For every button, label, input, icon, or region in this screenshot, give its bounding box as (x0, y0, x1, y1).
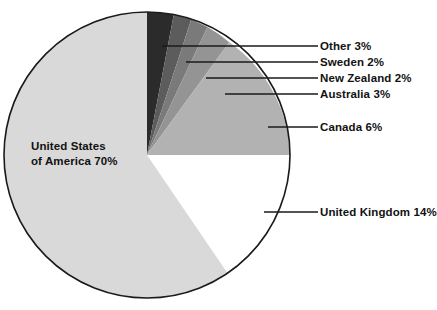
pie-chart: Other 3% Sweden 2% New Zealand 2% Austra… (0, 0, 437, 310)
pie-label-united-states-of-america: United States of America 70% (31, 139, 118, 169)
pie-label-new-zealand: New Zealand 2% (320, 71, 412, 85)
pie-label-usa-line1: United States (31, 139, 118, 154)
pie-label-united-kingdom: United Kingdom 14% (320, 205, 437, 219)
pie-label-australia: Australia 3% (320, 87, 390, 101)
pie-label-sweden: Sweden 2% (320, 55, 384, 69)
pie-label-usa-line2: of America 70% (31, 154, 118, 169)
pie-label-canada: Canada 6% (320, 120, 382, 134)
pie-label-other: Other 3% (320, 39, 371, 53)
